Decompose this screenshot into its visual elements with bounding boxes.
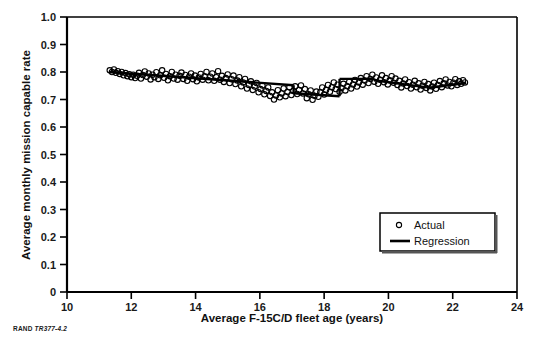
y-tick-label: 1.0 bbox=[41, 11, 56, 23]
y-tick-label: 0.4 bbox=[41, 176, 57, 188]
y-tick-label: 0.7 bbox=[41, 94, 56, 106]
legend-box-shadow-bottom bbox=[382, 251, 497, 254]
y-tick-label: 0.1 bbox=[41, 259, 56, 271]
y-tick-label: 0.2 bbox=[41, 231, 56, 243]
figure-container: 00.10.20.30.40.50.60.70.80.91.0 10121416… bbox=[0, 0, 546, 349]
x-tick-label: 20 bbox=[382, 301, 394, 313]
y-tick-label: 0.5 bbox=[41, 149, 56, 161]
y-tick-label: 0.6 bbox=[41, 121, 56, 133]
y-tick-label: 0 bbox=[50, 286, 56, 298]
source-note-id: TR377-4.2 bbox=[35, 325, 68, 332]
x-tick-label: 12 bbox=[125, 301, 137, 313]
x-tick-label: 10 bbox=[61, 301, 73, 313]
y-tick-label: 0.3 bbox=[41, 204, 56, 216]
y-tick-label: 0.9 bbox=[41, 39, 56, 51]
y-axis-title: Average monthly mission capable rate bbox=[20, 50, 32, 260]
legend-label-regression: Regression bbox=[414, 235, 470, 247]
y-axis-ticks: 00.10.20.30.40.50.60.70.80.91.0 bbox=[41, 11, 67, 298]
legend: Actual Regression bbox=[380, 213, 498, 254]
x-tick-label: 22 bbox=[447, 301, 459, 313]
x-axis-title: Average F-15C/D fleet age (years) bbox=[201, 312, 384, 324]
y-tick-label: 0.8 bbox=[41, 66, 56, 78]
source-note: RAND TR377-4.2 bbox=[13, 325, 67, 332]
chart-canvas: 00.10.20.30.40.50.60.70.80.91.0 10121416… bbox=[0, 0, 546, 349]
x-axis-ticks: 1012141618202224 bbox=[61, 292, 524, 313]
source-note-brand: RAND bbox=[13, 325, 33, 332]
x-tick-label: 24 bbox=[511, 301, 524, 313]
legend-box-shadow-right bbox=[495, 215, 498, 253]
legend-label-actual: Actual bbox=[414, 219, 445, 231]
